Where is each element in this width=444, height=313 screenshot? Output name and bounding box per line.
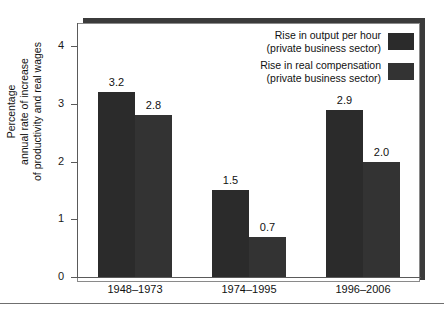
legend-item-output-per-hour: Rise in output per hour (private busines… bbox=[236, 29, 414, 54]
legend-swatch-series-1 bbox=[388, 63, 414, 80]
y-axis-tick bbox=[71, 162, 78, 163]
bar-value-label: 3.2 bbox=[92, 77, 141, 88]
x-axis-category-label: 1996–2006 bbox=[303, 283, 423, 295]
legend-label-line-2: (private business sector) bbox=[260, 72, 381, 85]
legend-item-label: Rise in real compensation (private busin… bbox=[260, 59, 388, 84]
bar-value-label: 0.7 bbox=[243, 222, 292, 233]
bar-value-label: 2.0 bbox=[357, 147, 406, 158]
y-axis-line bbox=[77, 23, 78, 278]
y-axis-tick-label: 0 bbox=[38, 271, 64, 282]
bar bbox=[135, 115, 172, 277]
y-axis-tick-label: 1 bbox=[38, 213, 64, 224]
y-axis-title-line-3: of productivity and real wages bbox=[31, 32, 44, 192]
y-axis-title-line-2: annual rate of increase bbox=[18, 32, 31, 192]
figure-bar-chart: Percentage annual rate of increase of pr… bbox=[0, 0, 444, 313]
bar bbox=[98, 92, 135, 277]
legend-label-line-1: Rise in real compensation bbox=[260, 59, 381, 72]
x-axis-category-label: 1974–1995 bbox=[189, 283, 309, 295]
y-axis-title-line-1: Percentage bbox=[5, 32, 18, 192]
bar-value-label: 2.9 bbox=[320, 95, 369, 106]
legend-swatch-series-0 bbox=[388, 33, 414, 50]
bar bbox=[212, 190, 249, 277]
y-axis-tick bbox=[71, 46, 78, 47]
legend-label-line-1: Rise in output per hour bbox=[267, 29, 381, 42]
legend-item-real-compensation: Rise in real compensation (private busin… bbox=[236, 59, 414, 84]
bottom-divider bbox=[0, 303, 444, 304]
chart-legend: Rise in output per hour (private busines… bbox=[236, 29, 414, 89]
bar-value-label: 2.8 bbox=[129, 100, 178, 111]
bar bbox=[326, 110, 363, 277]
legend-label-line-2: (private business sector) bbox=[267, 42, 381, 55]
y-axis-tick-label: 4 bbox=[38, 40, 64, 51]
bar-value-label: 1.5 bbox=[206, 175, 255, 186]
x-axis-category-label: 1948–1973 bbox=[75, 283, 195, 295]
y-axis-tick bbox=[71, 277, 78, 278]
y-axis-tick-label: 3 bbox=[38, 98, 64, 109]
legend-item-label: Rise in output per hour (private busines… bbox=[267, 29, 388, 54]
y-axis-title: Percentage annual rate of increase of pr… bbox=[5, 32, 44, 192]
x-axis-line bbox=[77, 277, 421, 278]
bar bbox=[363, 162, 400, 277]
y-axis-tick bbox=[71, 104, 78, 105]
bar bbox=[249, 237, 286, 277]
y-axis-tick bbox=[71, 219, 78, 220]
y-axis-tick-label: 2 bbox=[38, 156, 64, 167]
